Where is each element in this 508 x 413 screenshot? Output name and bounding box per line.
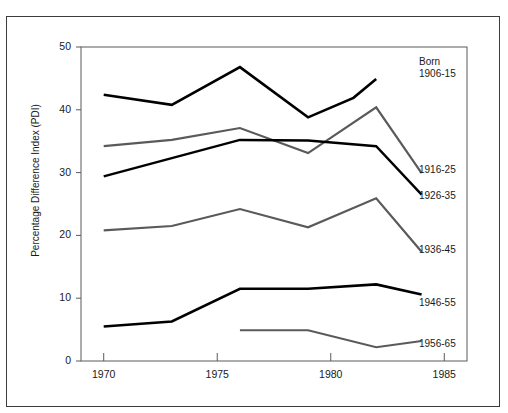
legend-header: Born (419, 56, 440, 68)
y-tick-label-10: 10 (47, 291, 71, 303)
y-tick-label-0: 0 (47, 354, 71, 366)
x-tick-label-1970: 1970 (84, 368, 124, 380)
y-axis-title: Percentage Difference Index (PDI) (30, 66, 41, 296)
y-tick-label-30: 30 (47, 166, 71, 178)
series-label-1946-55: 1946-55 (419, 297, 456, 309)
series-label-1926-35: 1926-35 (419, 190, 456, 202)
y-tick-label-20: 20 (47, 228, 71, 240)
series-label-1936-45: 1936-45 (419, 244, 456, 256)
chart-text-overlay: Percentage Difference Index (PDI) 010203… (0, 0, 508, 413)
x-tick-label-1985: 1985 (424, 368, 464, 380)
series-label-1916-25: 1916-25 (419, 164, 456, 176)
y-tick-label-50: 50 (47, 40, 71, 52)
series-label-1956-65: 1956-65 (419, 338, 456, 350)
series-label-1906-15: 1906-15 (419, 68, 456, 80)
y-tick-label-40: 40 (47, 103, 71, 115)
x-tick-label-1975: 1975 (197, 368, 237, 380)
x-tick-label-1980: 1980 (311, 368, 351, 380)
